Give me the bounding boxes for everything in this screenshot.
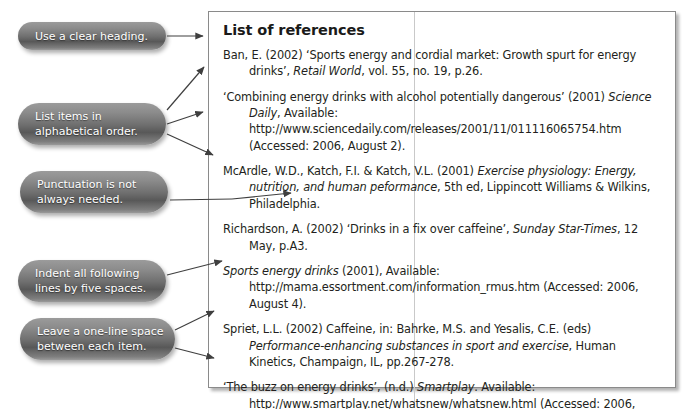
callout-line: List items in (35, 109, 149, 124)
callout-indent-five-spaces: Indent all following lines by five space… (18, 260, 166, 302)
callout-line: Use a clear heading. (35, 29, 149, 44)
callout-punctuation: Punctuation is not always needed. (20, 171, 168, 213)
connector-arrow-second-entry (167, 112, 203, 124)
connector-arrow-third-entry (167, 134, 213, 155)
callout-line: Indent all following (35, 266, 149, 281)
reference-entry: McArdle, W.D., Katch, F.I. & Katch, V.L.… (223, 163, 665, 212)
reference-entry: Richardson, A. (2002) ‘Drinks in a fix o… (223, 221, 665, 253)
callout-alphabetical-order: List items in alphabetical order. (18, 103, 166, 145)
callout-one-line-space: Leave a one-line space between each item… (20, 318, 175, 360)
callout-line: always needed. (37, 192, 151, 207)
reference-list-panel: List of references Ban, E. (2002) ‘Sport… (208, 11, 676, 388)
reference-entry: ‘The buzz on energy drinks’, (n.d.) Smar… (223, 379, 665, 409)
callout-line: between each item. (37, 339, 158, 354)
callout-line: alphabetical order. (35, 124, 149, 139)
page-title: List of references (223, 22, 665, 38)
reference-entry: Spriet, L.L. (2002) Caffeine, in: Bahrke… (223, 321, 665, 370)
callout-use-clear-heading: Use a clear heading. (18, 22, 166, 50)
connector-arrow-first-entry (167, 67, 204, 110)
reference-list-content: List of references Ban, E. (2002) ‘Sport… (223, 22, 665, 409)
callout-line: Leave a one-line space (37, 324, 158, 339)
reference-entry: Ban, E. (2002) ‘Sports energy and cordia… (223, 47, 665, 79)
reference-entry: ‘Combining energy drinks with alcohol po… (223, 89, 665, 154)
callout-line: lines by five spaces. (35, 281, 149, 296)
callout-line: Punctuation is not (37, 177, 151, 192)
reference-entry: Sports energy drinks (2001), Available: … (223, 263, 665, 312)
